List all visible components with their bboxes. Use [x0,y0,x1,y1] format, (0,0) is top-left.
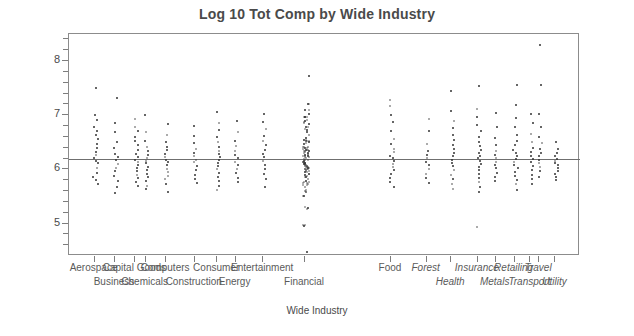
data-point [532,165,534,167]
data-point [538,159,540,161]
data-point [303,158,305,160]
data-point [538,155,540,157]
x-tick-label: Food [379,262,402,273]
data-point [532,122,534,124]
data-point [389,155,391,157]
data-point [234,161,236,163]
data-point [147,154,149,156]
data-point [393,186,395,188]
data-point [428,168,430,170]
data-point [217,141,219,143]
data-point [392,163,394,165]
data-point [94,114,96,116]
data-point [516,134,518,136]
data-point [389,181,391,183]
data-point [165,159,167,161]
data-point [425,173,427,175]
data-point [166,146,168,148]
data-point [514,126,516,128]
data-point [144,140,146,142]
data-point [538,113,540,115]
data-point [218,172,220,174]
data-point [495,167,497,169]
data-point [479,155,481,157]
data-point [306,119,308,121]
y-tick-label: 6 [34,161,60,173]
data-point [195,169,197,171]
y-tick-minor [63,233,68,234]
data-point [117,180,119,182]
data-point [453,120,455,122]
data-point [262,153,264,155]
data-point [452,155,454,157]
data-point [308,109,310,111]
data-point [115,159,117,161]
data-point [302,195,304,197]
data-point [450,90,452,92]
data-point [494,180,496,182]
data-point [425,161,427,163]
data-point [555,179,557,181]
data-point [134,140,136,142]
data-point [193,152,195,154]
data-point [306,131,308,133]
x-tick [554,256,555,262]
data-point [307,178,309,180]
x-tick-label: Travel [525,262,552,273]
data-point [308,75,310,77]
data-point [216,136,218,138]
data-point [476,124,478,126]
data-point [262,160,264,162]
y-tick-label: 7 [34,107,60,119]
data-point [304,186,306,188]
data-point [531,141,533,143]
x-tick-label: Utility [542,276,566,287]
data-point [452,134,454,136]
data-point [137,177,139,179]
data-point [97,138,99,140]
data-point [392,121,394,123]
y-tick-minor [63,71,68,72]
data-point [495,150,497,152]
data-point [95,134,97,136]
data-point [538,162,540,164]
data-point [216,168,218,170]
data-point [307,183,309,185]
data-point [495,144,497,146]
data-point [554,155,556,157]
y-tick-minor [63,103,68,104]
data-point [137,164,139,166]
data-point [428,118,430,120]
data-point [134,126,136,128]
data-point [264,186,266,188]
data-point [194,178,196,180]
data-point [146,169,148,171]
data-point [539,170,541,172]
data-point [515,152,517,154]
data-point [196,182,198,184]
data-point [540,84,542,86]
data-point [478,166,480,168]
data-point [478,152,480,154]
data-point [426,154,428,156]
data-point [196,165,198,167]
data-point [305,142,307,144]
data-point [96,167,98,169]
data-point [137,130,139,132]
data-point [514,144,516,146]
data-point [237,164,239,166]
data-point [263,135,265,137]
data-point [515,104,517,106]
data-point [193,155,195,157]
data-point [304,128,306,130]
data-point [146,157,148,159]
data-point [96,172,98,174]
data-point [516,140,518,142]
data-point [515,158,517,160]
data-point [453,169,455,171]
y-tick-minor [63,93,68,94]
data-point [531,178,533,180]
data-point [393,151,395,153]
data-point [165,141,167,143]
y-tick-minor [63,49,68,50]
